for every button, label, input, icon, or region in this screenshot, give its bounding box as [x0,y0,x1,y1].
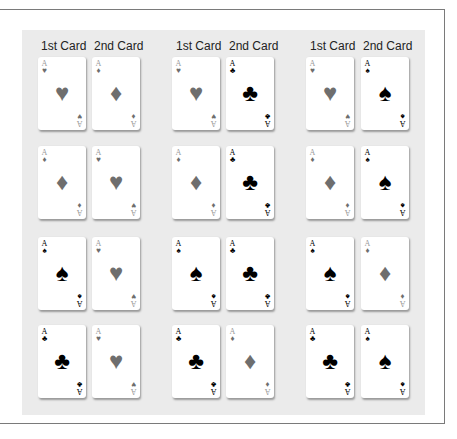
card-ace-of-clubs: A♣♣A♣ [38,325,86,398]
rank-label: A [264,388,271,395]
corner-index-top: A♦ [229,328,236,342]
rank-label: A [210,209,217,216]
spade-icon: ♠ [175,247,182,254]
corner-index-top: A♥ [175,60,182,74]
club-icon: ♣ [226,79,274,107]
rank-label: A [264,209,271,216]
spade-icon: ♠ [364,156,371,163]
club-icon: ♣ [210,381,217,388]
diamond-icon: ♦ [41,156,48,163]
corner-index-top: A♥ [95,240,102,254]
corner-index-top: A♣ [229,240,236,254]
corner-index-top: A♦ [364,240,371,254]
heart-icon: ♥ [38,79,86,107]
club-icon: ♣ [172,347,220,375]
header-group2-second: 2nd Card [229,39,278,53]
card-ace-of-spades: A♠♠A♠ [361,146,409,219]
corner-index-top: A♦ [309,149,316,163]
corner-index-bottom: A♦ [344,202,351,216]
corner-index-bottom: A♦ [264,381,271,395]
corner-index-top: A♥ [41,60,48,74]
diamond-icon: ♦ [226,347,274,375]
corner-index-bottom: A♥ [76,113,83,127]
corner-index-bottom: A♥ [210,113,217,127]
rank-label: A [130,300,137,307]
header-group2-first: 1st Card [176,39,221,53]
corner-index-bottom: A♣ [344,381,351,395]
header-group1-first: 1st Card [41,39,86,53]
rank-label: A [399,300,406,307]
diamond-icon: ♦ [172,168,220,196]
card-ace-of-spades: A♠♠A♠ [361,57,409,130]
heart-icon: ♥ [306,79,354,107]
card-ace-of-hearts: A♥♥A♥ [38,57,86,130]
heart-icon: ♥ [92,259,140,287]
corner-index-bottom: A♣ [76,381,83,395]
spade-icon: ♠ [364,335,371,342]
corner-index-top: A♣ [229,60,236,74]
corner-index-bottom: A♣ [264,293,271,307]
corner-index-top: A♥ [95,328,102,342]
card-ace-of-hearts: A♥♥A♥ [172,57,220,130]
card-ace-of-spades: A♠♠A♠ [172,237,220,310]
corner-index-bottom: A♦ [76,202,83,216]
corner-index-bottom: A♠ [76,293,83,307]
diamond-icon: ♦ [306,168,354,196]
rank-label: A [344,209,351,216]
rank-label: A [130,388,137,395]
card-ace-of-diamonds: A♦♦A♦ [172,146,220,219]
corner-index-bottom: A♥ [130,381,137,395]
corner-index-top: A♠ [309,240,316,254]
corner-index-top: A♦ [41,149,48,163]
card-ace-of-diamonds: A♦♦A♦ [92,57,140,130]
rank-label: A [76,388,83,395]
corner-index-bottom: A♠ [399,381,406,395]
club-icon: ♣ [264,202,271,209]
diamond-icon: ♦ [229,335,236,342]
spade-icon: ♠ [364,67,371,74]
club-icon: ♣ [264,293,271,300]
spade-icon: ♠ [361,168,409,196]
card-ace-of-spades: A♠♠A♠ [361,325,409,398]
corner-index-bottom: A♠ [399,202,406,216]
corner-index-bottom: A♣ [264,113,271,127]
corner-index-bottom: A♥ [344,113,351,127]
spade-icon: ♠ [41,247,48,254]
diamond-icon: ♦ [92,79,140,107]
club-icon: ♣ [264,113,271,120]
card-ace-of-clubs: A♣♣A♣ [226,237,274,310]
corner-index-top: A♣ [41,328,48,342]
corner-index-bottom: A♥ [130,293,137,307]
heart-icon: ♥ [92,168,140,196]
heart-icon: ♥ [92,347,140,375]
card-ace-of-spades: A♠♠A♠ [306,237,354,310]
card-ace-of-clubs: A♣♣A♣ [306,325,354,398]
diamond-icon: ♦ [361,259,409,287]
diamond-icon: ♦ [38,168,86,196]
club-icon: ♣ [344,381,351,388]
heart-icon: ♥ [175,67,182,74]
heart-icon: ♥ [95,156,102,163]
club-icon: ♣ [309,335,316,342]
header-group3-first: 1st Card [310,39,355,53]
card-ace-of-hearts: A♥♥A♥ [92,146,140,219]
rank-label: A [76,209,83,216]
spade-icon: ♠ [38,259,86,287]
corner-index-bottom: A♠ [210,293,217,307]
club-icon: ♣ [229,247,236,254]
corner-index-top: A♠ [364,328,371,342]
heart-icon: ♥ [95,335,102,342]
corner-index-bottom: A♥ [130,202,137,216]
spade-icon: ♠ [306,259,354,287]
card-ace-of-clubs: A♣♣A♣ [172,325,220,398]
corner-index-bottom: A♣ [210,381,217,395]
spade-icon: ♠ [172,259,220,287]
rank-label: A [399,209,406,216]
rank-label: A [210,300,217,307]
rank-label: A [264,300,271,307]
club-icon: ♣ [226,259,274,287]
rank-label: A [344,300,351,307]
card-ace-of-diamonds: A♦♦A♦ [38,146,86,219]
corner-index-top: A♥ [309,60,316,74]
diamond-icon: ♦ [95,67,102,74]
